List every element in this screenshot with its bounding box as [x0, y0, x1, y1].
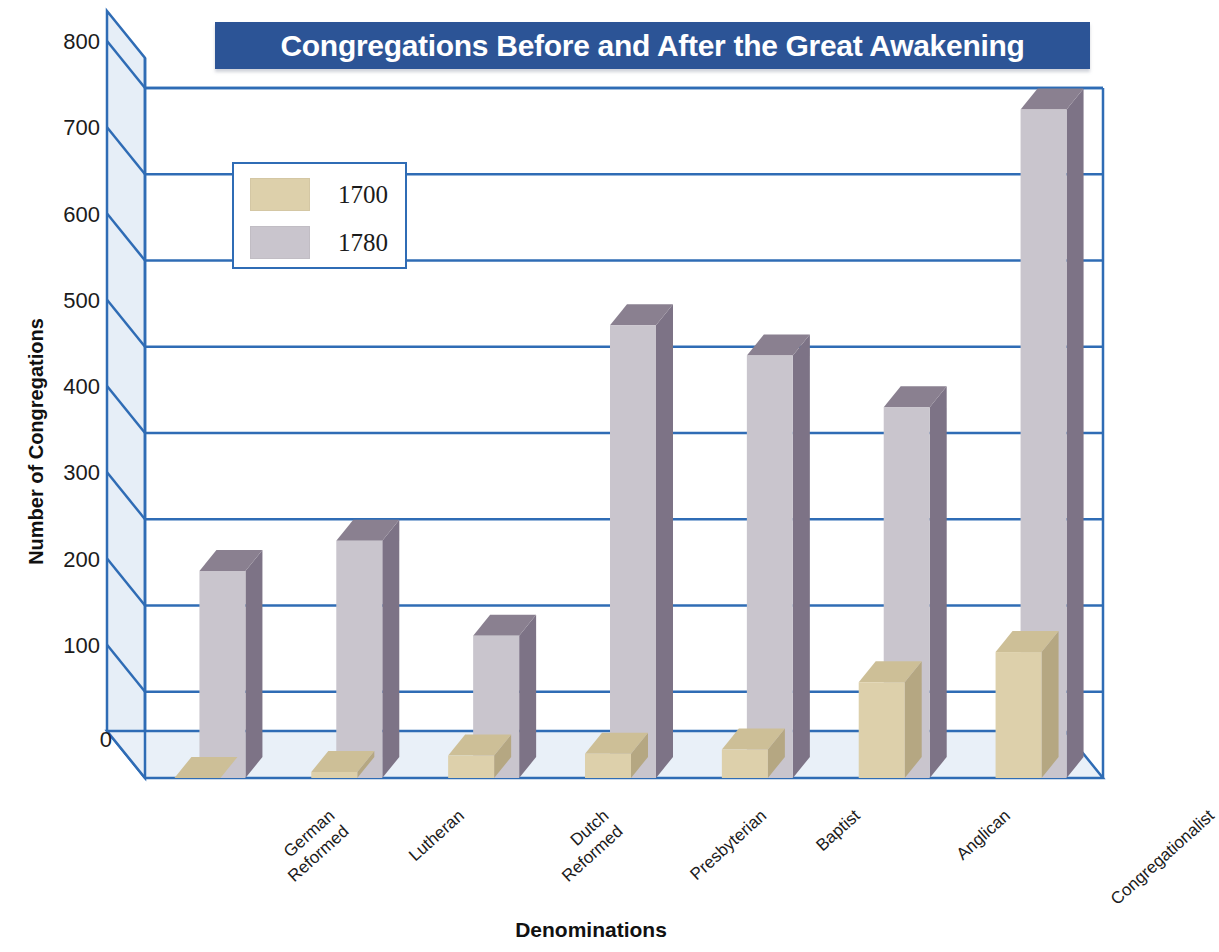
- y-axis-title: Number of Congregations: [25, 312, 48, 572]
- y-tick-label-800: 800: [28, 29, 100, 55]
- y-tick-label-600: 600: [28, 202, 100, 228]
- x-axis-title: Denominations: [0, 918, 1182, 942]
- chart-title-banner: Congregations Before and After the Great…: [215, 22, 1090, 69]
- legend-label-1780: 1780: [338, 229, 388, 257]
- chart-legend: 1700 1780: [232, 162, 407, 269]
- y-tick-label-0: 0: [40, 727, 112, 753]
- bar-1700-6: [996, 631, 1059, 778]
- bar-1780-0: [199, 550, 262, 778]
- y-tick-label-400: 400: [28, 374, 100, 400]
- bar-1700-5: [859, 661, 922, 778]
- legend-swatch-1700: [250, 178, 310, 211]
- y-tick-label-200: 200: [28, 547, 100, 573]
- chart-title: Congregations Before and After the Great…: [280, 29, 1024, 63]
- bar-1780-3: [610, 304, 673, 778]
- bar-1780-1: [336, 520, 399, 778]
- legend-label-1700: 1700: [338, 181, 388, 209]
- y-tick-label-100: 100: [28, 633, 100, 659]
- legend-swatch-1780: [250, 226, 310, 259]
- legend-item-1780: 1780: [250, 226, 388, 259]
- y-tick-label-300: 300: [28, 460, 100, 486]
- bar-1780-4: [747, 334, 810, 778]
- legend-item-1700: 1700: [250, 178, 388, 211]
- y-tick-label-500: 500: [28, 288, 100, 314]
- y-tick-label-700: 700: [28, 115, 100, 141]
